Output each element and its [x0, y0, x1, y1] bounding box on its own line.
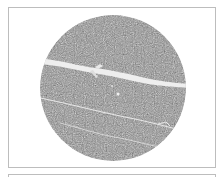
inclusion-spot	[116, 92, 119, 95]
specimen-image	[0, 0, 223, 177]
inclusion-spot	[111, 85, 113, 87]
specimen-grain-texture	[40, 15, 186, 161]
